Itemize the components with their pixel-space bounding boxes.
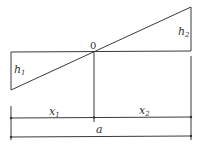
label-a: a — [96, 123, 103, 136]
label-x2: x2 — [139, 104, 150, 118]
baseline — [11, 51, 191, 52]
label-x1: x1 — [49, 105, 60, 119]
tick-x1-x2 — [93, 116, 95, 118]
label-h1: h1 — [14, 63, 26, 77]
dimension-x1-x2 — [11, 117, 191, 118]
tick-x1-left — [10, 117, 12, 119]
label-h2: h2 — [178, 25, 190, 39]
tick-a-right — [190, 135, 192, 137]
origin-label: 0 — [90, 40, 96, 51]
tick-x2-right — [190, 116, 192, 118]
slope-line — [11, 7, 191, 90]
tick-a-left — [10, 136, 12, 138]
diagram-canvas: 0 h1 h2 x1 x2 a — [0, 0, 197, 154]
dimension-a — [11, 136, 191, 137]
